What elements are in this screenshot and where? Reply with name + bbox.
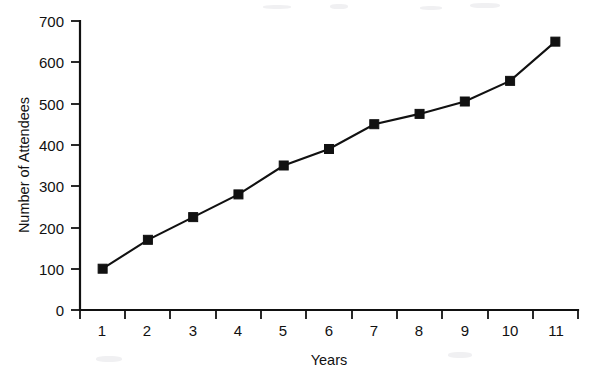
y-tick-label: 0: [56, 302, 64, 319]
y-tick-label: 300: [39, 178, 64, 195]
y-tick-label: 600: [39, 54, 64, 71]
x-tick-label: 5: [279, 322, 287, 339]
x-tick-label: 9: [461, 322, 469, 339]
x-tick-label: 6: [325, 322, 333, 339]
y-tick-label: 500: [39, 96, 64, 113]
x-tick-label: 2: [143, 322, 151, 339]
data-point-marker: [143, 235, 152, 244]
data-point-marker: [506, 76, 515, 85]
data-point-marker: [415, 109, 424, 118]
x-tick-label: 4: [234, 322, 242, 339]
y-tick-label: 400: [39, 137, 64, 154]
data-point-marker: [234, 190, 243, 199]
chart-canvas: 700 600 500 400 300 200 100 0 1: [0, 0, 592, 374]
data-point-marker: [370, 120, 379, 129]
data-point-marker: [189, 213, 198, 222]
data-point-marker: [279, 161, 288, 170]
data-point-marker: [98, 264, 107, 273]
x-tick-label: 10: [502, 322, 519, 339]
chart-background: [0, 0, 592, 374]
x-tick-label: 8: [415, 322, 423, 339]
data-point-marker: [325, 144, 334, 153]
y-tick-label: 100: [39, 261, 64, 278]
x-tick-label: 3: [189, 322, 197, 339]
y-tick-label: 200: [39, 220, 64, 237]
x-tick-label: 7: [370, 322, 378, 339]
line-chart-figure: 700 600 500 400 300 200 100 0 1: [0, 0, 592, 374]
y-axis-title: Number of Attendees: [16, 97, 32, 233]
data-point-marker: [551, 37, 560, 46]
x-axis-title: Years: [311, 352, 348, 368]
data-point-marker: [460, 97, 469, 106]
x-tick-label: 1: [98, 322, 106, 339]
x-tick-label: 11: [548, 322, 564, 339]
y-tick-label: 700: [39, 13, 64, 30]
